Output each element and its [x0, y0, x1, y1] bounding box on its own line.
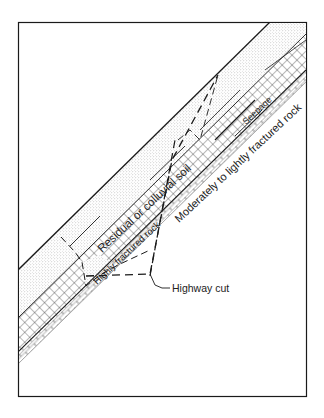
label-highway-cut: Highway cut	[172, 282, 229, 294]
geologic-section-diagram: Residual or colluvial soil Highly fractu…	[0, 0, 324, 418]
